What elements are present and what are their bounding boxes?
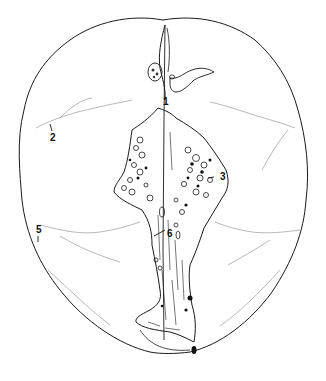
label-6: 6 bbox=[167, 229, 173, 239]
label-3: 3 bbox=[220, 172, 226, 182]
label-5: 5 bbox=[36, 225, 42, 235]
skull-outline-drawing bbox=[0, 0, 326, 381]
label-2: 2 bbox=[50, 133, 56, 143]
skull-diagram: 1 2 3 5 6 bbox=[0, 0, 326, 381]
label-1: 1 bbox=[163, 97, 169, 107]
